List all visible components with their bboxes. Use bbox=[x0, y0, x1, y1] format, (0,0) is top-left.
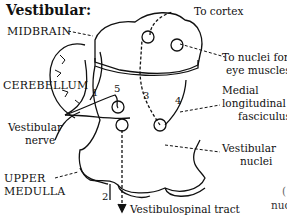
to-cortex-label: To cortex bbox=[194, 6, 243, 17]
vestibular-nuclei-label-1: Vestibular bbox=[222, 143, 276, 154]
upper-medulla-label-1: UPPER bbox=[4, 173, 45, 184]
cutoff-nuc: nuc bbox=[271, 200, 287, 211]
midbrain-label: MIDBRAIN bbox=[7, 26, 71, 37]
vestibulospinal-label: Vestibulospinal tract bbox=[130, 204, 240, 215]
pathway-number-1: 1 bbox=[92, 88, 98, 98]
diagram-title: Vestibular: bbox=[6, 3, 91, 17]
mlf-label-3: fasciculus bbox=[238, 111, 287, 122]
pathway-number-4: 4 bbox=[175, 96, 181, 106]
upper-medulla-label-2: MEDULLA bbox=[4, 186, 65, 197]
to-nuclei-label-2: eye muscles bbox=[226, 65, 287, 76]
cutoff-paren: ( bbox=[282, 186, 286, 197]
pathway-number-2: 2 bbox=[102, 192, 108, 202]
to-nuclei-label-1: To nuclei for bbox=[222, 52, 287, 63]
cerebellum-label: CEREBELLUM bbox=[3, 80, 88, 91]
mlf-label-2: longitudinal bbox=[222, 98, 286, 109]
pathway-number-5: 5 bbox=[114, 84, 120, 94]
pathway-number-3: 3 bbox=[143, 91, 149, 101]
mlf-label-1: Medial bbox=[222, 85, 259, 96]
vestibular-nerve-label-1: Vestibular bbox=[8, 122, 62, 133]
vestibular-nuclei-label-2: nuclei bbox=[240, 156, 272, 167]
vestibular-nerve-label-2: nerve bbox=[25, 135, 55, 146]
